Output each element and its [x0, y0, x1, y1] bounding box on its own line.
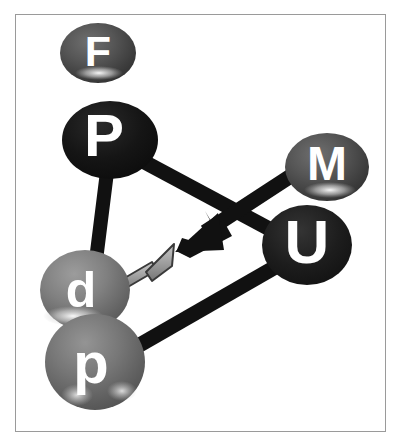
node-F-label: F	[85, 27, 111, 75]
node-P[interactable]: P	[62, 101, 158, 179]
node-F[interactable]: F	[60, 23, 136, 83]
node-P-label: P	[84, 102, 124, 169]
node-layer: F P M U d	[40, 23, 369, 410]
node-diagram: F P M U d	[0, 0, 402, 446]
node-U[interactable]: U	[262, 205, 352, 285]
node-M-label: M	[307, 137, 347, 190]
node-U-label: U	[285, 207, 330, 276]
node-d-label: d	[66, 262, 97, 318]
node-p[interactable]: p	[45, 314, 145, 410]
figure-root: F P M U d	[0, 0, 402, 446]
node-p-highlight-right	[107, 381, 137, 401]
node-M[interactable]: M	[285, 133, 369, 201]
node-p-label: p	[73, 330, 108, 395]
